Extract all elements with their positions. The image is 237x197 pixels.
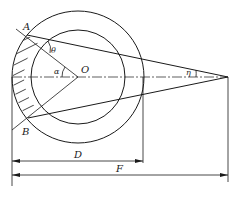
label-dim-d: D	[73, 149, 82, 160]
angle-alpha-arc	[62, 67, 65, 77]
label-angle-eta: η	[186, 68, 191, 77]
line-o-to-a	[16, 29, 78, 77]
label-angle-theta: θ	[51, 46, 56, 55]
line-b-to-apex	[28, 77, 228, 118]
label-point-a: A	[22, 21, 30, 32]
label-center-o: O	[81, 64, 89, 75]
label-angle-alpha: α	[54, 67, 60, 76]
geometry-diagram: A B O θ α η D F	[0, 0, 237, 197]
line-o-to-b	[12, 77, 78, 130]
label-dim-f: F	[115, 163, 124, 174]
label-point-b: B	[21, 126, 29, 137]
